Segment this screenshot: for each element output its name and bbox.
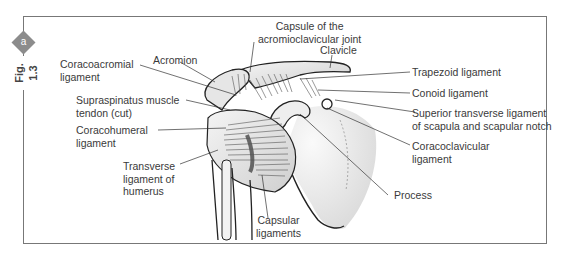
label-transverse-ligament-humerus: Transverse ligament of humerus (123, 160, 175, 198)
label-line: Capsule of the (258, 20, 361, 33)
panel-badge-letter: a (15, 34, 32, 51)
label-line: Coracoclavicular (412, 140, 490, 153)
label-clavicle: Clavicle (320, 44, 357, 57)
label-line: ligament (412, 153, 490, 166)
label-line: of scapula and scapular notch (412, 120, 552, 133)
label-line: Coracohumeral (76, 124, 148, 137)
label-coracoacromial-ligament: Coracoacromial ligament (60, 58, 134, 83)
label-coracohumeral-ligament: Coracohumeral ligament (76, 124, 148, 149)
label-conoid-ligament: Conoid ligament (412, 87, 488, 100)
acromion-shape (205, 69, 249, 110)
scapula-shape (285, 106, 376, 229)
label-process: Process (394, 189, 432, 202)
label-coracoclavicular-ligament: Coracoclavicular ligament (412, 140, 490, 165)
label-line: ligaments (256, 227, 301, 240)
label-line: Supraspinatus muscle (76, 94, 179, 107)
clavicle-shape (240, 61, 350, 88)
label-capsule-acromioclavicular-joint: Capsule of the acromioclavicular joint (258, 20, 361, 45)
label-line: Superior transverse ligament (412, 107, 552, 120)
label-line: Capsular (256, 214, 301, 227)
label-line: ligament (60, 71, 134, 84)
label-line: humerus (123, 185, 175, 198)
label-line: tendon (cut) (76, 107, 179, 120)
label-capsular-ligaments: Capsular ligaments (256, 214, 301, 239)
label-line: Coracoacromial (60, 58, 134, 71)
label-line: ligament of (123, 173, 175, 186)
label-line: Transverse (123, 160, 175, 173)
label-acromion: Acromion (153, 54, 197, 67)
label-supraspinatus-tendon: Supraspinatus muscle tendon (cut) (76, 94, 179, 119)
label-line: ligament (76, 137, 148, 150)
label-trapezoid-ligament: Trapezoid ligament (412, 66, 501, 79)
figure-number: Fig. 1.3 (12, 56, 26, 90)
label-superior-transverse-ligament: Superior transverse ligament of scapula … (412, 107, 552, 132)
